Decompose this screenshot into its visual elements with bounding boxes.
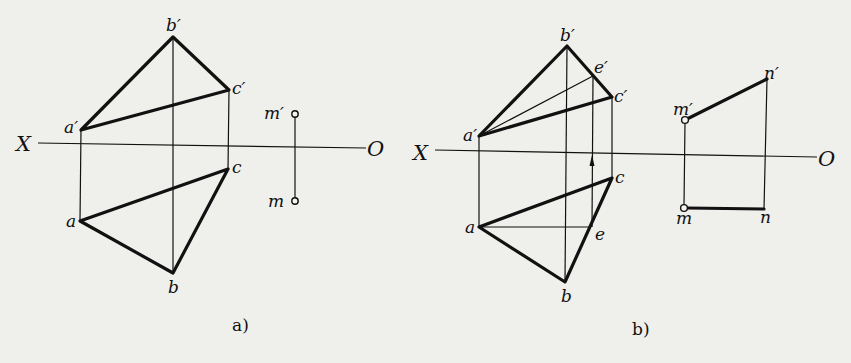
label-m-prime: m′ [264, 103, 284, 123]
label-e: e [595, 224, 605, 244]
caption-a: a) [232, 315, 249, 335]
label-m: m [676, 208, 692, 228]
projector-n [764, 79, 767, 209]
axis-label-o: O [367, 137, 384, 161]
triangle-top-view [80, 169, 228, 273]
line-m-prime-n-prime [687, 79, 767, 119]
figure-b: X O b′ e′ c′ a′ c a e b m′ n′ m [411, 25, 835, 339]
axis-label-o: O [818, 147, 835, 171]
label-c-prime: c′ [614, 86, 628, 106]
label-b: b [561, 286, 572, 306]
label-b-prime: b′ [166, 15, 181, 35]
triangle-front-view [81, 37, 229, 130]
xo-axis-line [38, 143, 366, 148]
label-n-prime: n′ [764, 63, 779, 83]
label-b-prime: b′ [560, 25, 575, 45]
label-a: a [66, 211, 76, 231]
axis-label-x: X [411, 141, 429, 165]
projector-m [684, 123, 685, 205]
label-c: c [232, 157, 242, 177]
line-mn [687, 208, 764, 209]
label-c-prime: c′ [232, 78, 246, 98]
point-m-prime [292, 111, 298, 117]
label-m-prime: m′ [673, 99, 693, 119]
xo-axis-line [435, 150, 817, 157]
label-c: c [615, 167, 625, 187]
label-b: b [168, 277, 179, 297]
caption-b: b) [632, 319, 650, 339]
projector-c [228, 90, 229, 169]
figure-a: X O b′ c′ a′ c a b m′ m a) [14, 15, 384, 335]
label-a: a [465, 217, 475, 237]
projector-e [592, 76, 593, 227]
point-m [292, 198, 298, 204]
label-m: m [268, 191, 284, 211]
label-e-prime: e′ [594, 57, 608, 77]
projection-diagram: X O b′ c′ a′ c a b m′ m a) X O [0, 0, 851, 363]
arrow-up-icon [590, 155, 595, 166]
axis-label-x: X [14, 132, 32, 156]
triangle-front-view [479, 46, 612, 136]
projector-b [565, 46, 567, 282]
label-n: n [760, 207, 771, 227]
label-a-prime: a′ [64, 117, 78, 137]
label-a-prime: a′ [463, 125, 477, 145]
